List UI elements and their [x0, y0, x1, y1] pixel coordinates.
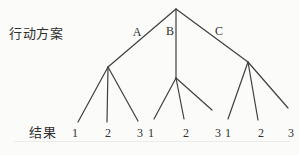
alternatives-label: 行动方案 [9, 27, 63, 40]
tree-edge-root-C [176, 9, 248, 62]
tree-edge-A-A2 [107, 67, 108, 122]
outcome-number-3: 1 [148, 127, 154, 139]
tree-edge-A-A3 [108, 67, 138, 121]
outcome-number-8: 3 [288, 127, 294, 139]
outcome-number-2: 3 [137, 127, 143, 139]
branch-label-a: A [133, 26, 142, 38]
outcome-number-5: 3 [215, 127, 221, 139]
decision-tree-diagram: 行动方案 结果 ABC 123123123 [0, 0, 299, 155]
branch-label-b: B [166, 25, 174, 37]
tree-edge-B-B1 [154, 78, 176, 119]
outcome-number-6: 1 [225, 127, 231, 139]
outcome-number-4: 2 [183, 127, 189, 139]
tree-edge-C-C1 [228, 62, 248, 119]
outcome-number-0: 1 [72, 127, 78, 139]
outcome-number-1: 2 [105, 127, 111, 139]
branch-label-c: C [215, 25, 223, 37]
scan-artifact-line [14, 141, 290, 142]
tree-edge-root-A [108, 9, 176, 67]
tree-edge-C-C3 [248, 62, 288, 108]
tree-edge-C-C2 [248, 62, 258, 120]
tree-edge-A-A1 [78, 67, 108, 122]
outcomes-label: 结果 [29, 126, 56, 139]
outcome-number-7: 2 [258, 127, 264, 139]
